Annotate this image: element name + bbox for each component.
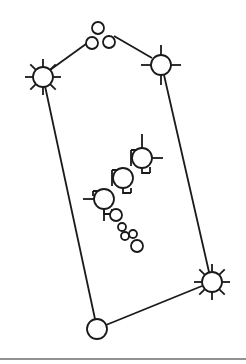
circle-node-icon xyxy=(131,240,143,252)
circle-node-icon xyxy=(94,189,114,209)
edge-n_bottom_left-n_bottom_right xyxy=(106,286,202,325)
circle-node-icon xyxy=(87,319,107,339)
circle-node-icon xyxy=(118,223,126,231)
diagram-canvas xyxy=(0,0,246,364)
sun-node-icon xyxy=(25,59,61,95)
circle-node-icon xyxy=(121,232,129,240)
node-layer xyxy=(25,22,230,339)
cross-node-icon xyxy=(141,45,181,85)
circle-node-icon xyxy=(92,22,104,34)
circle-node-icon xyxy=(129,230,137,238)
edge-n_right_top-n_bottom_right xyxy=(164,75,209,272)
circle-node-icon xyxy=(113,168,133,188)
sun-node-icon xyxy=(194,264,230,300)
circle-node-icon xyxy=(132,148,152,168)
edge-n_top_c3-n_right_top xyxy=(114,36,152,58)
circle-node-icon xyxy=(103,36,115,48)
edge-n_left_sun-n_bottom_left xyxy=(45,86,95,319)
circle-node-icon xyxy=(86,37,98,49)
circle-node-icon xyxy=(110,209,122,221)
edge-n_left_sun-n_top_c2 xyxy=(50,44,86,70)
